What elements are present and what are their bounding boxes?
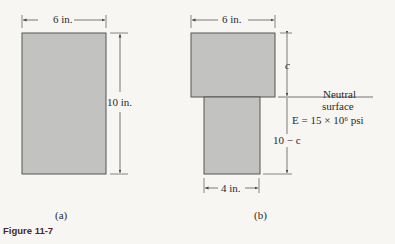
panel-b-caption: (b) [254, 210, 267, 221]
panel-b-web [204, 97, 260, 174]
panel-b-bottom-width-label: 4 in. [221, 183, 241, 194]
panel-a-caption: (a) [55, 210, 67, 221]
panel-b-top-width-label: 6 in. [222, 14, 242, 25]
neutral-label: Neutral [323, 89, 356, 100]
panel-a-width-label: 6 in. [53, 14, 73, 25]
panel-a-rectangle [22, 33, 106, 174]
surface-label: surface [322, 101, 354, 112]
panel-b-c-label: c [285, 60, 290, 71]
modulus-label: E = 15 × 10⁶ psi [292, 115, 364, 126]
panel-a-height-label: 10 in. [107, 97, 132, 108]
figure-caption: Figure 11-7 [3, 225, 53, 236]
panel-b-10-minus-c-label: 10 − c [273, 135, 301, 146]
panel-b-flange [191, 33, 275, 97]
